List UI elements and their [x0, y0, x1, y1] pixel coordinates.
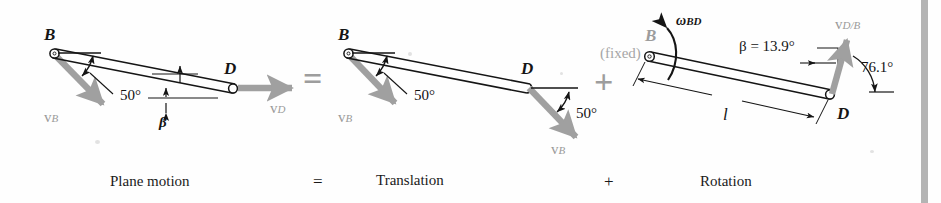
- label-vector-vb-at-d-panel2: vB: [551, 142, 565, 157]
- scan-speck: [408, 52, 412, 56]
- caption-translation: Translation: [376, 173, 444, 188]
- label-vector-vb-at-b-panel2: vB: [338, 110, 352, 125]
- label-vector-vdb-panel3: vD/B: [835, 17, 860, 32]
- rod-bd-panel3: [645, 52, 835, 99]
- label-point-b-panel3: B: [645, 27, 656, 44]
- label-vector-vb-panel1: vB: [44, 110, 58, 125]
- vector-vb-arrow-panel1: [54, 54, 103, 104]
- label-angle-beta-panel1: β: [159, 115, 167, 130]
- label-fixed-note-panel3: (fixed): [600, 46, 641, 61]
- omega-subscript: BD: [686, 15, 701, 27]
- vector-vb-subscript-b-panel2: B: [346, 112, 353, 124]
- vector-vb-arrow-b-panel2: [348, 54, 395, 103]
- panel-plane-motion-graphics: [50, 49, 292, 113]
- vector-vdb-subscript: D/B: [843, 19, 861, 31]
- vector-vd-symbol-panel1: v: [270, 100, 278, 116]
- scan-speck: [560, 72, 563, 75]
- operator-plus-symbol: +: [594, 65, 613, 99]
- caption-operator-equals: =: [313, 173, 323, 190]
- label-point-b-panel2: B: [338, 26, 349, 43]
- vector-vb-symbol-panel1: v: [44, 109, 52, 125]
- vector-vb-symbol-d-panel2: v: [551, 141, 559, 157]
- caption-plane-motion: Plane motion: [110, 173, 190, 190]
- label-angle-50-at-b-panel2: 50°: [414, 88, 435, 103]
- page-edge-bar: [921, 0, 928, 203]
- beta-leader-and-marker: [800, 48, 838, 70]
- label-angle-50-at-d-panel2: 50°: [576, 106, 597, 121]
- plane-motion-decomposition-figure: B vB 50° β D vD = B vB 50° D 50° vB + (f…: [0, 0, 941, 203]
- scan-speck: [95, 140, 100, 144]
- label-point-d-panel2: D: [521, 60, 533, 77]
- label-beta-value-panel3: β = 13.9°: [739, 39, 795, 54]
- vector-vb-arrow-d-panel2: [529, 88, 576, 137]
- label-length-l-panel3: l: [723, 106, 728, 123]
- caption-rotation: Rotation: [700, 173, 752, 190]
- vector-vb-symbol-b-panel2: v: [338, 109, 346, 125]
- vector-vb-subscript-panel1: B: [52, 112, 59, 124]
- label-point-d-panel3: D: [837, 105, 849, 122]
- label-vector-vd-panel1: vD: [270, 101, 285, 116]
- label-omega-bd: ωBD: [676, 14, 701, 28]
- omega-symbol: ω: [676, 13, 686, 28]
- operator-equals-symbol: =: [303, 62, 322, 96]
- caption-operator-plus: +: [604, 173, 614, 190]
- vector-vd-subscript-panel1: D: [278, 103, 286, 115]
- label-point-d-panel1: D: [224, 60, 236, 77]
- label-angle-761-panel3: 76.1°: [861, 60, 893, 75]
- label-point-b-panel1: B: [44, 26, 55, 43]
- rod-bd-panel1: [50, 49, 238, 93]
- omega-bd-curved-arrow: [667, 28, 676, 80]
- scan-speck: [870, 150, 874, 153]
- vector-vdb-symbol: v: [835, 16, 843, 32]
- panel-translation-graphics: [344, 49, 578, 137]
- vector-vb-subscript-d-panel2: B: [559, 144, 566, 156]
- label-angle-50-panel1: 50°: [120, 88, 141, 103]
- rod-bd-panel2: [344, 49, 532, 93]
